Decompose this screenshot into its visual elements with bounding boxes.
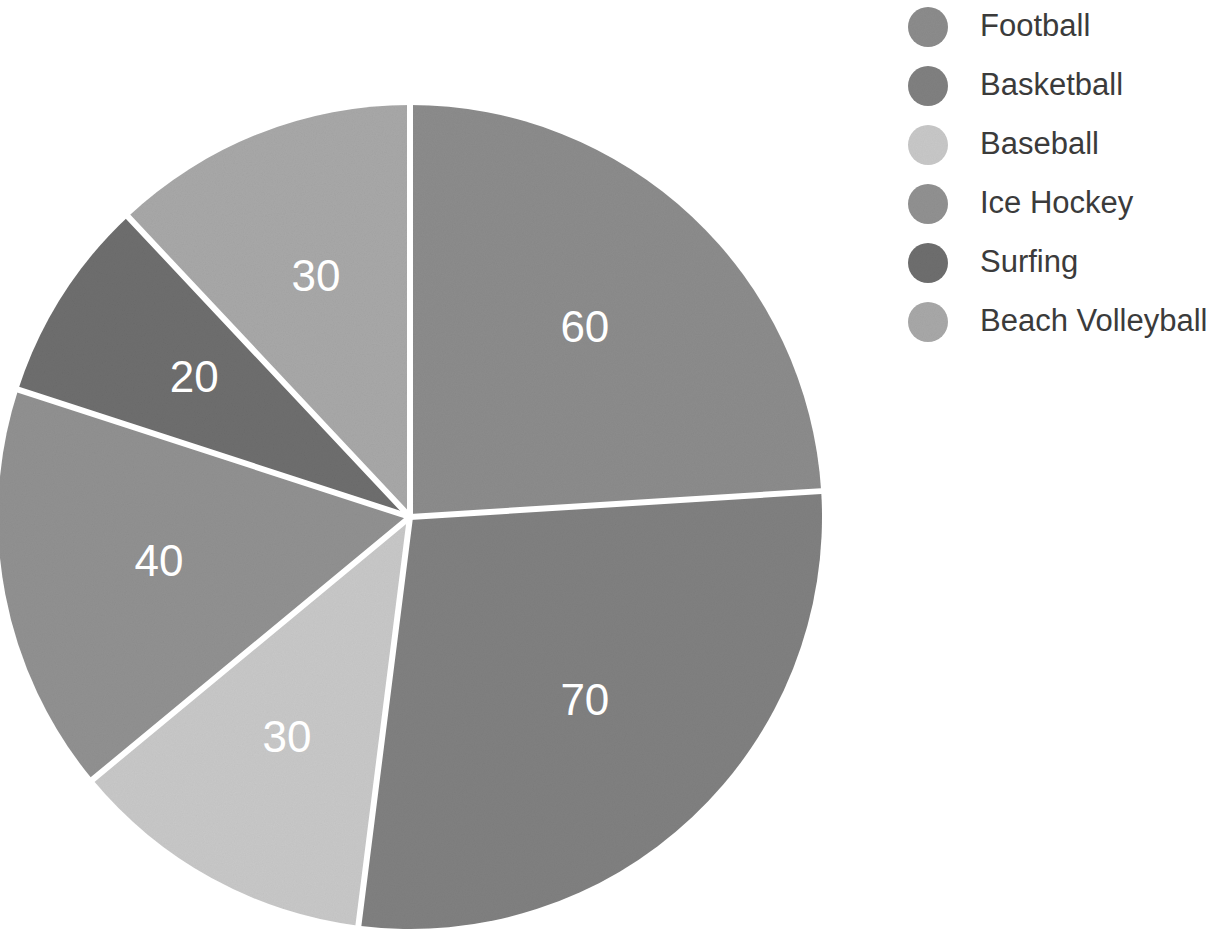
slice-value-label-baseball: 30 — [262, 712, 311, 761]
slice-value-label-basketball: 70 — [560, 675, 609, 724]
legend-label: Basketball — [980, 67, 1123, 102]
pie-chart-figure: 607030402030 FootballBasketballBaseballI… — [0, 0, 1228, 939]
legend-swatch-circle-icon — [908, 7, 948, 47]
legend-swatch-circle-icon — [908, 302, 948, 342]
legend-label: Ice Hockey — [980, 185, 1134, 220]
legend-label: Football — [980, 8, 1090, 43]
legend-swatch-circle-icon — [908, 66, 948, 106]
chart-canvas: 607030402030 FootballBasketballBaseballI… — [0, 0, 1228, 939]
slice-value-label-surfing: 20 — [170, 352, 219, 401]
slice-value-label-football: 60 — [560, 302, 609, 351]
legend-label: Baseball — [980, 126, 1099, 161]
legend-label: Surfing — [980, 244, 1078, 279]
legend-item-ice-hockey[interactable]: Ice Hockey — [908, 184, 1134, 224]
slice-value-label-beach-volleyball: 30 — [291, 251, 340, 300]
legend-swatch-circle-icon — [908, 125, 948, 165]
legend-label: Beach Volleyball — [980, 303, 1208, 338]
legend-item-baseball[interactable]: Baseball — [908, 125, 1099, 165]
legend-swatch-circle-icon — [908, 243, 948, 283]
legend-item-basketball[interactable]: Basketball — [908, 66, 1123, 106]
legend-item-football[interactable]: Football — [908, 7, 1090, 47]
legend-swatch-circle-icon — [908, 184, 948, 224]
legend-item-surfing[interactable]: Surfing — [908, 243, 1078, 283]
slice-value-label-ice-hockey: 40 — [135, 536, 184, 585]
